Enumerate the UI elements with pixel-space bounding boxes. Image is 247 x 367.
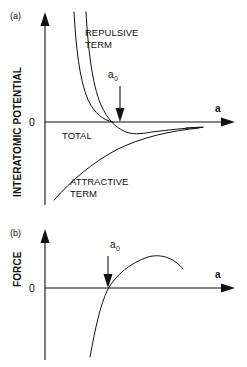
panel-a-y-axis-title: INTERATOMIC POTENTIAL (12, 67, 23, 197)
panel-b-zero-label: 0 (29, 282, 35, 294)
interatomic-potential-figure: (a) INTERATOMIC POTENTIAL 0 a a (0, 0, 247, 367)
panel-a: (a) INTERATOMIC POTENTIAL 0 a a (10, 11, 235, 205)
panel-a-x-axis-arrowhead (221, 118, 235, 127)
panel-a-attractive-label-line2: TERM (70, 188, 97, 199)
panel-a-a0-arrowhead (116, 108, 125, 122)
panel-b-label: (b) (10, 228, 21, 238)
panel-b-equilibrium-annotation: a 0 (104, 239, 121, 288)
panel-a-repulsive-label-line1: REPULSIVE (85, 27, 138, 38)
panel-b-x-axis-label: a (215, 269, 221, 280)
panel-b-y-axis-title: FORCE (12, 251, 23, 287)
figure-canvas: (a) INTERATOMIC POTENTIAL 0 a a (0, 0, 247, 367)
panel-b-a0-arrowhead (104, 274, 113, 288)
panel-b-force-curve (90, 256, 183, 357)
panel-a-attractive-label-line1: ATTRACTIVE (70, 176, 128, 187)
panel-a-equilibrium-annotation: a 0 (108, 69, 125, 122)
panel-a-asymptote-dash (186, 128, 203, 129)
panel-b-a0-subscript: 0 (116, 245, 120, 252)
panel-a-total-label: TOTAL (62, 130, 92, 141)
panel-a-repulsive-label-line2: TERM (85, 39, 112, 50)
panel-b-x-axis-arrowhead (221, 284, 235, 293)
panel-a-zero-label: 0 (29, 116, 35, 128)
panel-b-y-axis-arrowhead (41, 229, 50, 243)
panel-a-y-axis-arrowhead (41, 12, 50, 26)
panel-a-x-axis-label: a (215, 103, 221, 114)
panel-a-label: (a) (10, 11, 21, 21)
panel-a-a0-subscript: 0 (114, 75, 118, 82)
panel-b: (b) FORCE 0 a a 0 (10, 228, 235, 360)
